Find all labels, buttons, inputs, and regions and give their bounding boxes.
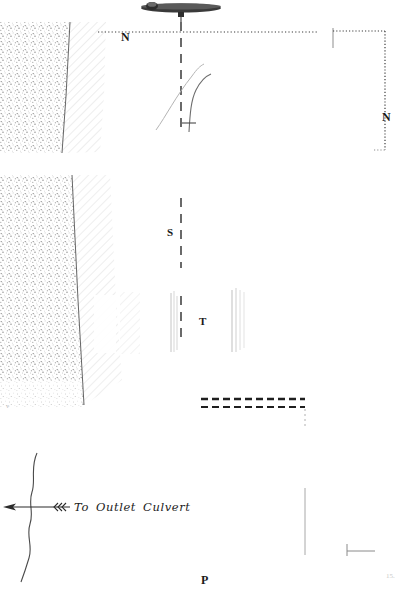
- label-n-left: N: [121, 30, 130, 45]
- scale-tick-mark: [347, 544, 375, 556]
- hatch-gap-rect-secondary: [120, 292, 140, 354]
- annotation-word-to: To: [74, 500, 89, 514]
- channel-dashed-pair: [201, 399, 305, 428]
- contour-curve-pair: [156, 64, 211, 132]
- label-p: P: [201, 573, 209, 588]
- annotation-word-culvert: Culvert: [143, 500, 191, 514]
- label-t: T: [199, 315, 207, 327]
- hatch-gap-rect: [94, 295, 116, 353]
- dotted-boundary-box: [333, 28, 386, 150]
- sheet-corner-mark: 15.: [386, 572, 395, 580]
- label-n-right: N: [382, 110, 391, 125]
- embankment-stipple-remnant: [0, 380, 82, 408]
- label-s: S: [167, 226, 174, 238]
- embankment-stipple-lower: [0, 175, 84, 405]
- faint-scan-speck: v: [6, 403, 9, 409]
- drawing-sheet: v N N S T P ToOutletCulvert 15.: [0, 0, 403, 589]
- embankment-stipple-upper: [0, 22, 70, 153]
- t-section-detail-lines: [171, 288, 244, 352]
- drawing-canvas: v: [0, 0, 403, 589]
- to-outlet-culvert-annotation: ToOutletCulvert: [74, 500, 198, 514]
- meandering-stream-line: [21, 453, 37, 582]
- annotation-word-outlet: Outlet: [96, 500, 136, 514]
- weir-structure-symbol: [141, 2, 221, 22]
